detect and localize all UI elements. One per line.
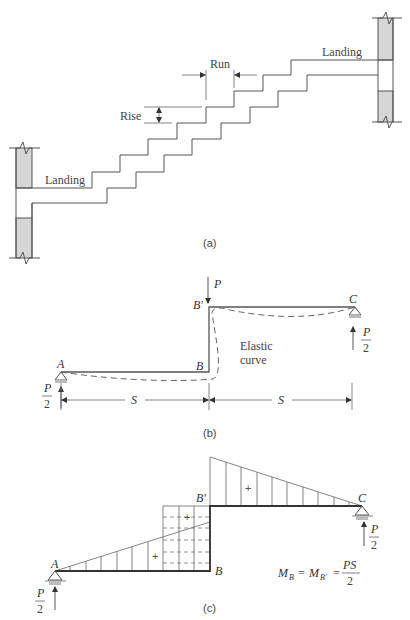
elastic-curve bbox=[61, 307, 355, 381]
moment-region-b-prime-c bbox=[210, 457, 362, 506]
sign-positive-left: + bbox=[152, 550, 158, 562]
point-b-prime-label: B′ bbox=[193, 298, 203, 312]
span-left-label: S bbox=[131, 393, 137, 407]
reaction-a-fraction: P 2 bbox=[35, 586, 45, 616]
stair-soffit-profile bbox=[32, 75, 378, 218]
caption-b: (b) bbox=[203, 427, 216, 439]
reaction-a-fraction: P 2 bbox=[42, 381, 52, 411]
run-label: Run bbox=[210, 57, 230, 71]
point-a-label: A bbox=[50, 557, 59, 571]
reaction-c-fraction: P 2 bbox=[369, 522, 379, 552]
span-dimension: S S bbox=[61, 383, 352, 410]
svg-text:M: M bbox=[308, 566, 320, 580]
moment-hatching-left bbox=[70, 542, 148, 571]
svg-text:P: P bbox=[362, 325, 371, 339]
rise-label: Rise bbox=[120, 109, 141, 123]
figure-a-stair-elevation: Run Rise Landing Landing (a) bbox=[9, 12, 402, 264]
moment-equation: M B = M B′ = PS 2 bbox=[277, 558, 360, 588]
svg-text:2: 2 bbox=[347, 574, 353, 588]
pin-support-a-icon bbox=[55, 372, 67, 383]
point-b-prime-label: B′ bbox=[196, 491, 206, 505]
landing-upper-label: Landing bbox=[322, 45, 362, 59]
run-dimension: Run bbox=[182, 57, 257, 100]
point-b-label: B bbox=[215, 564, 223, 578]
beam-centerline bbox=[61, 307, 355, 372]
stair-structural-figure: Run Rise Landing Landing (a) bbox=[0, 0, 410, 620]
svg-text:2: 2 bbox=[371, 538, 377, 552]
caption-a: (a) bbox=[203, 237, 216, 249]
point-a-label: A bbox=[56, 357, 65, 371]
point-c-label: C bbox=[349, 292, 358, 306]
svg-text:P: P bbox=[36, 586, 45, 600]
svg-text:P: P bbox=[43, 381, 52, 395]
landing-lower-label: Landing bbox=[45, 173, 85, 187]
pin-support-a-icon bbox=[45, 571, 66, 585]
right-wall bbox=[372, 12, 402, 128]
elastic-curve-label-2: curve bbox=[240, 353, 267, 367]
svg-text:P: P bbox=[370, 522, 379, 536]
rise-dimension: Rise bbox=[120, 107, 202, 123]
figure-b-structural-model: P A B B′ C Elastic curve P 2 P 2 bbox=[42, 277, 371, 439]
point-b-label: B bbox=[196, 359, 204, 373]
sign-positive-right: + bbox=[245, 482, 251, 494]
svg-text:PS: PS bbox=[342, 558, 356, 572]
moment-diagonal-ab bbox=[55, 522, 210, 571]
svg-text:M: M bbox=[277, 566, 289, 580]
span-right-label: S bbox=[278, 393, 284, 407]
point-c-label: C bbox=[358, 491, 367, 505]
svg-text:2: 2 bbox=[37, 602, 43, 616]
stair-top-profile bbox=[16, 60, 393, 188]
reaction-c-fraction: P 2 bbox=[361, 325, 371, 355]
load-label: P bbox=[213, 277, 222, 291]
svg-text:2: 2 bbox=[44, 397, 50, 411]
figure-c-moment-diagram: P 2 P 2 A B B′ C + + + M B = M B′ = PS 2 bbox=[35, 457, 379, 616]
elastic-curve-label-1: Elastic bbox=[240, 339, 273, 353]
svg-text:=: = bbox=[333, 566, 340, 580]
svg-text:B: B bbox=[289, 573, 294, 582]
sign-positive-box: + bbox=[184, 511, 190, 523]
svg-text:=: = bbox=[298, 566, 305, 580]
svg-text:2: 2 bbox=[363, 341, 369, 355]
svg-text:B′: B′ bbox=[320, 573, 327, 582]
pin-support-c-icon bbox=[352, 506, 373, 520]
caption-c: (c) bbox=[203, 602, 216, 614]
